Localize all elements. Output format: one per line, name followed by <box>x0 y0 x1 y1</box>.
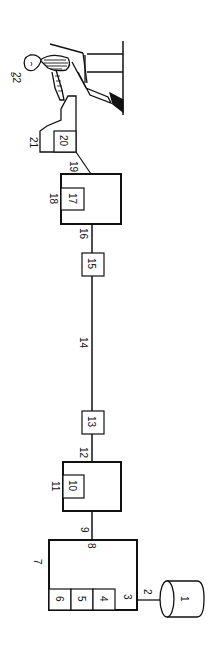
label-7: 7 <box>32 559 43 565</box>
label-19: 19 <box>68 161 79 173</box>
label-16: 16 <box>78 228 89 240</box>
label-11: 11 <box>50 481 61 492</box>
label-8: 8 <box>86 543 97 549</box>
label-13: 13 <box>86 416 97 428</box>
label-12: 12 <box>78 447 89 459</box>
label-4: 4 <box>98 596 109 602</box>
terminal-21 <box>40 96 76 152</box>
label-2: 2 <box>142 589 153 595</box>
block-diagram: 22 20 21 19 17 18 16 15 14 13 12 10 11 9… <box>0 0 213 649</box>
label-18: 18 <box>48 193 59 205</box>
label-1: 1 <box>179 596 190 602</box>
label-15: 15 <box>86 258 97 270</box>
label-22: 22 <box>11 72 22 84</box>
label-5: 5 <box>76 596 87 602</box>
label-17: 17 <box>67 193 78 205</box>
label-21: 21 <box>28 137 39 149</box>
label-3: 3 <box>122 594 133 600</box>
label-20: 20 <box>58 135 69 147</box>
label-14: 14 <box>78 337 89 349</box>
label-9: 9 <box>79 527 90 533</box>
label-6: 6 <box>54 596 65 602</box>
label-10: 10 <box>67 480 78 492</box>
